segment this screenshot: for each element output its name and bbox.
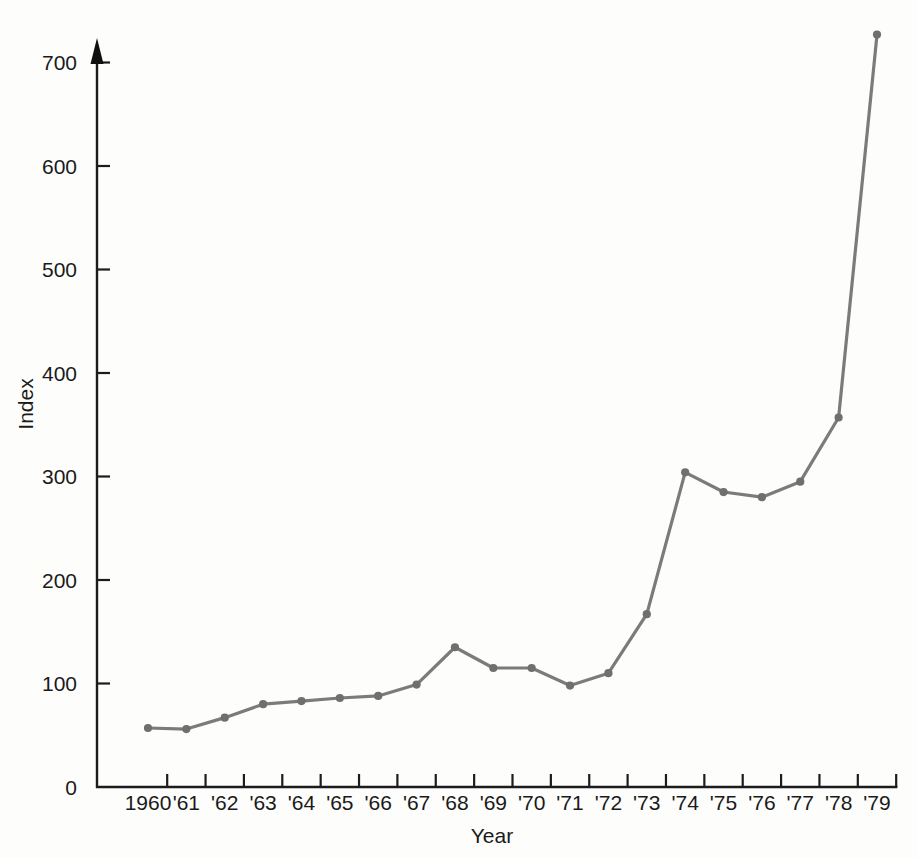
x-tick-label: '61	[173, 791, 200, 814]
data-point-marker	[758, 493, 766, 501]
x-axis-title: Year	[471, 824, 513, 847]
x-tick-label: '68	[441, 791, 468, 814]
x-axis-tick-labels: 1960'61'62'63'64'65'66'67'68'69'70'71'72…	[125, 791, 891, 814]
data-point-marker	[144, 724, 152, 732]
y-axis-tick-labels: 0100200300400500600700	[42, 51, 77, 799]
chart-svg: 0100200300400500600700 1960'61'62'63'64'…	[0, 0, 917, 858]
data-point-marker	[374, 692, 382, 700]
line-chart-figure: 0100200300400500600700 1960'61'62'63'64'…	[0, 0, 917, 858]
data-point-marker	[451, 643, 459, 651]
x-tick-label: '74	[671, 791, 699, 814]
y-tick-label: 500	[42, 258, 77, 281]
x-tick-label: '73	[633, 791, 660, 814]
x-tick-label: '79	[863, 791, 890, 814]
data-point-marker	[297, 697, 305, 705]
x-tick-label: '63	[249, 791, 276, 814]
index-series-line	[148, 35, 877, 729]
x-tick-label: '65	[326, 791, 353, 814]
data-point-marker	[528, 664, 536, 672]
x-tick-label: 1960	[125, 791, 172, 814]
x-tick-label: '75	[710, 791, 737, 814]
y-tick-label: 700	[42, 51, 77, 74]
x-tick-label: '64	[288, 791, 316, 814]
x-tick-label: '66	[365, 791, 392, 814]
x-tick-label: '77	[787, 791, 814, 814]
data-point-marker	[182, 725, 190, 733]
data-point-marker	[412, 680, 420, 688]
data-point-marker	[566, 681, 574, 689]
y-tick-label: 600	[42, 155, 77, 178]
data-point-marker	[681, 468, 689, 476]
data-point-marker	[719, 488, 727, 496]
y-tick-label: 100	[42, 672, 77, 695]
data-point-marker	[604, 669, 612, 677]
y-tick-label: 0	[65, 776, 77, 799]
x-tick-label: '71	[556, 791, 583, 814]
x-tick-label: '70	[518, 791, 545, 814]
x-tick-label: '67	[403, 791, 430, 814]
index-series-markers	[144, 30, 881, 733]
x-tick-label: '72	[595, 791, 622, 814]
data-point-marker	[796, 478, 804, 486]
chart-axes	[97, 52, 896, 787]
data-point-marker	[221, 714, 229, 722]
y-tick-label: 400	[42, 362, 77, 385]
y-tick-label: 200	[42, 569, 77, 592]
y-axis-arrow-icon	[91, 38, 104, 64]
y-axis-title: Index	[14, 378, 37, 430]
x-tick-label: '76	[748, 791, 775, 814]
data-point-marker	[835, 413, 843, 421]
data-point-marker	[873, 30, 881, 38]
x-tick-label: '62	[211, 791, 238, 814]
data-point-marker	[489, 664, 497, 672]
data-point-marker	[259, 700, 267, 708]
x-tick-label: '69	[480, 791, 507, 814]
y-axis-tick-marks	[97, 63, 110, 684]
data-point-marker	[336, 694, 344, 702]
y-tick-label: 300	[42, 465, 77, 488]
x-tick-label: '78	[825, 791, 852, 814]
chart-page: 0100200300400500600700 1960'61'62'63'64'…	[0, 0, 917, 858]
x-axis-tick-marks	[167, 774, 896, 787]
data-point-marker	[643, 610, 651, 618]
